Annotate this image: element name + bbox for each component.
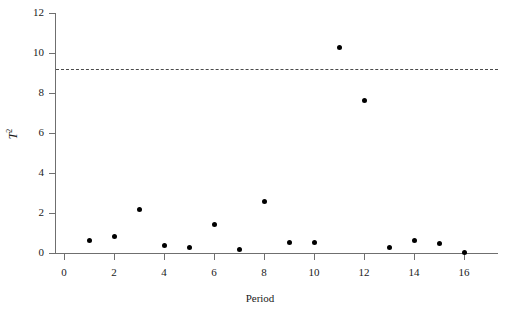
x-tick-mark	[264, 254, 265, 260]
data-point	[187, 245, 192, 250]
x-tick-mark	[414, 254, 415, 260]
data-point	[362, 98, 367, 103]
data-point	[287, 240, 292, 245]
y-axis-title-base: T	[6, 133, 20, 140]
x-tick-label-text: 12	[359, 266, 370, 278]
x-tick-label-text: 4	[161, 266, 167, 278]
x-tick-mark	[214, 254, 215, 260]
x-tick-label-text: 0	[61, 266, 67, 278]
y-axis-line	[55, 13, 56, 254]
data-point	[412, 238, 417, 243]
x-tick-label: 14	[399, 262, 429, 276]
y-tick-label: 2	[0, 207, 44, 219]
y-tick-mark	[49, 213, 55, 214]
x-tick-label-text: 10	[309, 266, 320, 278]
y-tick-label: 12	[0, 7, 44, 19]
y-tick-mark	[49, 53, 55, 54]
data-point	[462, 250, 467, 255]
y-tick-label: 10	[0, 47, 44, 59]
y-tick-label-text: 8	[0, 87, 44, 98]
x-tick-label: 12	[349, 262, 379, 276]
y-axis-title: T2	[5, 129, 21, 140]
x-tick-mark	[164, 254, 165, 260]
x-tick-mark	[364, 254, 365, 260]
x-tick-mark	[314, 254, 315, 260]
y-axis-title-exponent: 2	[5, 129, 14, 133]
data-point	[137, 207, 142, 212]
x-axis-line	[55, 253, 498, 254]
x-tick-label: 6	[199, 262, 229, 276]
x-tick-label-text: 8	[261, 266, 267, 278]
y-tick-mark	[49, 133, 55, 134]
data-point	[212, 222, 217, 227]
control-limit-line	[56, 69, 498, 70]
y-tick-mark	[49, 13, 55, 14]
data-point	[162, 243, 167, 248]
y-tick-label-text: 12	[0, 7, 44, 18]
data-point	[337, 45, 342, 50]
y-tick-mark	[49, 253, 55, 254]
y-tick-label-text: 2	[0, 207, 44, 218]
data-point	[262, 199, 267, 204]
x-tick-label: 4	[149, 262, 179, 276]
x-tick-label-text: 2	[111, 266, 117, 278]
y-tick-label: 8	[0, 87, 44, 99]
data-point	[237, 247, 242, 252]
y-tick-mark	[49, 173, 55, 174]
x-tick-label: 10	[299, 262, 329, 276]
y-tick-label-text: 0	[0, 247, 44, 258]
scatter-chart: 024681012 0246810121416 Period T2	[0, 0, 520, 317]
data-point	[437, 241, 442, 246]
x-tick-label-text: 14	[409, 266, 420, 278]
data-point	[312, 240, 317, 245]
x-tick-label: 16	[449, 262, 479, 276]
x-tick-mark	[114, 254, 115, 260]
x-tick-label: 2	[99, 262, 129, 276]
x-tick-label: 0	[49, 262, 79, 276]
y-tick-mark	[49, 93, 55, 94]
y-tick-label: 0	[0, 247, 44, 259]
data-point	[112, 234, 117, 239]
x-tick-mark	[464, 254, 465, 260]
x-tick-label-text: 16	[459, 266, 470, 278]
x-tick-mark	[64, 254, 65, 260]
y-tick-label: 4	[0, 167, 44, 179]
x-axis-title: Period	[0, 292, 520, 304]
x-tick-label-text: 6	[211, 266, 217, 278]
y-tick-label-text: 10	[0, 47, 44, 58]
data-point	[387, 245, 392, 250]
y-tick-label-text: 4	[0, 167, 44, 178]
data-point	[87, 238, 92, 243]
x-tick-label: 8	[249, 262, 279, 276]
